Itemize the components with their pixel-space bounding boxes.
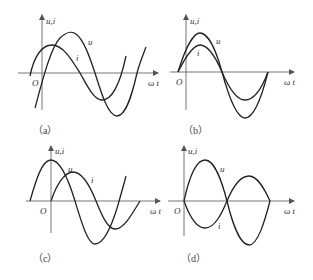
y-axis-label: u,i [46, 16, 56, 26]
y-axis-label: u,i [188, 146, 198, 156]
voltage-label: u [88, 37, 93, 47]
panel-a: u,i ω t O u i （a） [18, 15, 160, 136]
current-label: i [91, 175, 94, 185]
x-axis-label: ω t [150, 206, 162, 216]
origin-label: O [40, 206, 47, 216]
voltage-label: u [220, 164, 225, 174]
y-axis-label: u,i [190, 16, 200, 26]
panel-c: u,i ω t O u i （c） [26, 146, 162, 264]
panel-b: u,i ω t O u i （b） [170, 15, 296, 136]
caption-d: （d） [181, 253, 206, 264]
caption-c: （c） [33, 253, 57, 264]
origin-label: O [174, 206, 181, 216]
voltage-label: u [68, 164, 73, 174]
x-axis-label: ω t [284, 77, 296, 87]
current-label: i [76, 53, 79, 63]
x-axis-label: ω t [148, 78, 160, 88]
panel-d: u,i ω t O u i （d） [168, 146, 296, 264]
x-axis-label: ω t [284, 206, 296, 216]
current-label: i [218, 221, 221, 231]
voltage-label: u [216, 36, 221, 46]
origin-label: O [176, 77, 183, 87]
caption-b: （b） [183, 125, 208, 136]
current-curve [184, 176, 270, 228]
caption-a: （a） [33, 125, 57, 136]
origin-label: O [32, 78, 39, 88]
current-label: i [197, 48, 200, 58]
waveform-figure: u,i ω t O u i （a） u,i ω t O u i （b） u,i … [0, 0, 313, 280]
leading-curve [30, 160, 126, 244]
y-axis-label: u,i [55, 146, 65, 156]
